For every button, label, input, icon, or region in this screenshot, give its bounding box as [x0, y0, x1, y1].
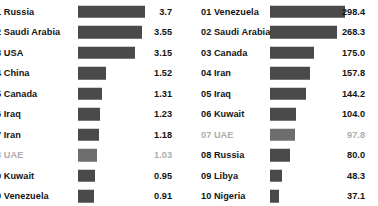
bar-row[interactable]: 0 Venezuela0.91 — [0, 186, 190, 206]
bar-row-value: 298.4 — [321, 7, 365, 17]
bar-row[interactable]: 10 Nigeria37.1 — [188, 186, 378, 206]
bar-row[interactable]: 1 Russia3.7 — [0, 2, 190, 23]
bar-rect — [78, 129, 99, 142]
bar-rect — [78, 6, 145, 19]
bar-row-label: 3 USA — [0, 48, 23, 58]
bar-row-label: 05 Iraq — [201, 89, 231, 99]
bar-row[interactable]: 9 Kuwait0.95 — [0, 166, 190, 187]
bar-chart-left: 1 Russia3.72 Saudi Arabia3.553 USA3.154 … — [0, 0, 190, 206]
bar-row[interactable]: 3 USA3.15 — [0, 43, 190, 64]
bar-row-value: 3.7 — [140, 7, 172, 17]
bar-row-label: 01 Venezuela — [201, 7, 259, 17]
bar-rect — [78, 149, 97, 162]
bar-row-value: 1.23 — [140, 109, 172, 119]
bar-row-label: 5 Canada — [0, 89, 37, 99]
bar-row-value: 3.55 — [140, 27, 172, 37]
bar-row[interactable]: 2 Saudi Arabia3.55 — [0, 22, 190, 43]
bar-row-value: 37.1 — [321, 191, 365, 201]
bar-row-value: 80.0 — [321, 150, 365, 160]
bar-rect — [270, 67, 310, 80]
bar-row-value: 104.0 — [321, 109, 365, 119]
bar-row[interactable]: 07 UAE97.8 — [188, 125, 378, 146]
bar-row[interactable]: 5 Canada1.31 — [0, 84, 190, 105]
bar-row-value: 0.95 — [140, 171, 172, 181]
bar-row-value: 48.3 — [321, 171, 365, 181]
bar-rect — [78, 108, 100, 121]
bar-row-value: 97.8 — [321, 130, 365, 140]
bar-row-value: 1.18 — [140, 130, 172, 140]
bar-rect — [270, 149, 290, 162]
bar-row-value: 1.31 — [140, 89, 172, 99]
bar-row[interactable]: 08 Russia80.0 — [188, 145, 378, 166]
bar-row[interactable]: 6 Iraq1.23 — [0, 104, 190, 125]
bar-row-value: 1.03 — [140, 150, 172, 160]
bar-row[interactable]: 7 Iran1.18 — [0, 125, 190, 146]
bar-row-label: 2 Saudi Arabia — [0, 27, 60, 37]
bar-row-label: 03 Canada — [201, 48, 247, 58]
bar-row-label: 7 Iran — [0, 130, 21, 140]
bar-rect — [270, 88, 306, 101]
bar-row-label: 04 Iran — [201, 68, 231, 78]
bar-row[interactable]: 8 UAE1.03 — [0, 145, 190, 166]
bar-row-value: 0.91 — [140, 191, 172, 201]
bar-rect — [270, 47, 314, 60]
bar-row[interactable]: 01 Venezuela298.4 — [188, 2, 378, 23]
bar-row[interactable]: 02 Saudi Arabia268.3 — [188, 22, 378, 43]
bar-row-label: 6 Iraq — [0, 109, 21, 119]
bar-rect — [78, 88, 102, 101]
bar-row[interactable]: 4 China1.52 — [0, 63, 190, 84]
bar-row-value: 157.8 — [321, 68, 365, 78]
bar-rect — [270, 190, 279, 203]
bar-row[interactable]: 03 Canada175.0 — [188, 43, 378, 64]
bar-row-value: 175.0 — [321, 48, 365, 58]
bar-chart-right: 01 Venezuela298.402 Saudi Arabia268.303 … — [188, 0, 378, 206]
bar-row[interactable]: 09 Libya48.3 — [188, 166, 378, 187]
bar-rect — [78, 26, 142, 39]
bar-rect — [78, 170, 95, 183]
bar-row-label: 07 UAE — [201, 130, 233, 140]
bar-row-label: 08 Russia — [201, 150, 244, 160]
bar-row-label: 02 Saudi Arabia — [201, 27, 270, 37]
bar-row-value: 144.2 — [321, 89, 365, 99]
bar-rect — [78, 190, 94, 203]
bar-rect — [270, 129, 295, 142]
bar-row-label: 8 UAE — [0, 150, 23, 160]
bar-row[interactable]: 04 Iran157.8 — [188, 63, 378, 84]
bar-row-label: 1 Russia — [0, 7, 34, 17]
bar-rect — [78, 47, 135, 60]
bar-row[interactable]: 05 Iraq144.2 — [188, 84, 378, 105]
bar-row-label: 09 Libya — [201, 171, 238, 181]
bar-row-value: 1.52 — [140, 68, 172, 78]
bar-row-value: 3.15 — [140, 48, 172, 58]
bar-row-value: 268.3 — [321, 27, 365, 37]
bar-rect — [78, 67, 106, 80]
bar-rect — [270, 108, 296, 121]
dual-bar-chart-page: 1 Russia3.72 Saudi Arabia3.553 USA3.154 … — [0, 0, 378, 206]
bar-rect — [270, 170, 282, 183]
bar-row-label: 06 Kuwait — [201, 109, 244, 119]
bar-row-label: 10 Nigeria — [201, 191, 245, 201]
bar-row-label: 0 Venezuela — [0, 191, 49, 201]
bar-row-label: 4 China — [0, 68, 30, 78]
bar-row-label: 9 Kuwait — [0, 171, 34, 181]
bar-row[interactable]: 06 Kuwait104.0 — [188, 104, 378, 125]
